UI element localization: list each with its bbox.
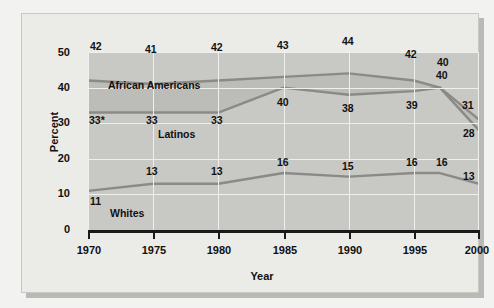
datalabel-aa-1975: 41 [145,43,157,55]
x-tick-label-1985: 1985 [263,244,307,256]
datalabel-aa-2000: 31 [462,99,474,111]
datalabel-lat-1995: 39 [406,99,418,111]
x-tick-label-1975: 1975 [132,244,176,256]
y-tick-label-50: 50 [42,46,70,58]
datalabel-aa-1995: 42 [405,48,417,60]
datalabel-lat-1997: 40 [436,69,448,81]
datalabel-wh-1985: 16 [277,156,289,168]
x-axis-title: Year [222,270,302,282]
gridline-v-1985 [284,52,285,230]
gridline-v-1980 [218,52,219,230]
x-tick-label-1980: 1980 [197,244,241,256]
datalabel-lat-1975: 33 [146,114,158,126]
y-tick-label-40: 40 [42,81,70,93]
datalabel-aa-1970: 42 [90,40,102,52]
datalabel-wh-2000: 13 [463,170,475,182]
x-tick-1990 [349,230,351,239]
datalabel-wh-1995: 16 [406,156,418,168]
x-tick-label-1970: 1970 [67,244,111,256]
x-tick-1985 [284,230,286,239]
datalabel-aa-1990: 44 [342,35,354,47]
datalabel-wh-1975: 13 [146,165,158,177]
datalabel-lat-1970: 33* [89,114,105,126]
y-tick-label-10: 10 [42,187,70,199]
series-label-whites: Whites [110,207,144,219]
datalabel-wh-1970: 11 [90,195,101,207]
gridline-v-1990 [349,52,350,230]
x-tick-1995 [414,230,416,239]
plot-area: African Americans Latinos Whites 42 41 4… [88,52,479,230]
x-tick-1980 [218,230,220,239]
x-tick-1975 [153,230,155,239]
gridline-v-2000 [478,52,479,230]
x-tick-label-2000: 2000 [455,244,494,256]
datalabel-aa-1985: 43 [277,39,289,51]
gridline-v-1995 [414,52,415,230]
x-tick-1970 [88,230,90,239]
x-tick-label-1995: 1995 [393,244,437,256]
datalabel-aa-1997: 40 [437,56,449,68]
datalabel-lat-2000: 28 [463,127,475,139]
y-tick-label-20: 20 [42,152,70,164]
datalabel-wh-1997: 16 [436,156,448,168]
x-tick-2000 [478,230,480,239]
datalabel-wh-1980: 13 [211,165,223,177]
series-label-african-americans: African Americans [108,79,200,91]
x-tick-label-1990: 1990 [328,244,372,256]
datalabel-lat-1985: 40 [277,96,289,108]
chart-card: Percent Year 50 40 30 20 10 0 [21,13,479,293]
datalabel-lat-1980: 33 [211,114,223,126]
datalabel-lat-1990: 38 [342,102,354,114]
y-tick-label-0: 0 [42,223,70,235]
gridline-v-1970 [88,52,89,230]
y-tick-label-30: 30 [42,116,70,128]
datalabel-wh-1990: 15 [342,160,354,172]
datalabel-aa-1980: 42 [211,41,223,53]
series-label-latinos: Latinos [158,128,195,140]
